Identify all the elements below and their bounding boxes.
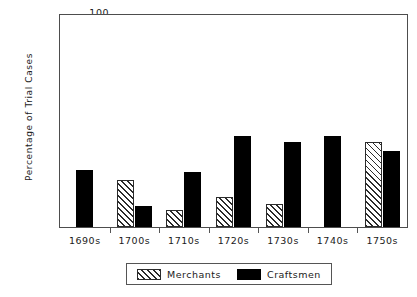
x-tick-mark xyxy=(258,228,259,233)
bar-merchants xyxy=(166,210,183,227)
x-tick-mark xyxy=(110,228,111,233)
x-tick-mark xyxy=(357,228,358,233)
x-tick-label: 1710s xyxy=(157,235,211,246)
bar-group xyxy=(258,15,308,227)
legend-label-merchants: Merchants xyxy=(167,269,221,280)
bar-group xyxy=(209,15,259,227)
bar-craftsmen xyxy=(284,142,301,227)
bar-craftsmen xyxy=(76,170,93,227)
x-tick-label: 1750s xyxy=(355,235,409,246)
bar-craftsmen xyxy=(383,151,400,227)
bar-group xyxy=(110,15,160,227)
bar-merchants xyxy=(117,180,134,227)
x-tick-mark xyxy=(308,228,309,233)
plot-area xyxy=(59,14,408,228)
bar-group xyxy=(308,15,358,227)
x-tick-label: 1690s xyxy=(58,235,112,246)
legend-item-merchants: Merchants xyxy=(137,269,221,280)
legend-label-craftsmen: Craftsmen xyxy=(267,269,321,280)
legend-swatch-craftsmen xyxy=(237,269,261,280)
legend-swatch-merchants xyxy=(137,269,161,280)
legend-item-craftsmen: Craftsmen xyxy=(237,269,321,280)
bar-group xyxy=(159,15,209,227)
bar-chart-figure: Percentage of Trial Cases 01020304050607… xyxy=(0,0,417,297)
bar-merchants xyxy=(216,197,233,227)
bar-group xyxy=(357,15,407,227)
bars-container xyxy=(60,15,407,227)
x-tick-label: 1730s xyxy=(256,235,310,246)
x-tick-label: 1720s xyxy=(207,235,261,246)
x-tick-mark xyxy=(209,228,210,233)
bar-merchants xyxy=(365,142,382,227)
bar-craftsmen xyxy=(234,136,251,227)
bar-craftsmen xyxy=(184,172,201,227)
bar-craftsmen xyxy=(135,206,152,227)
y-axis-title: Percentage of Trial Cases xyxy=(24,32,34,202)
x-tick-label: 1700s xyxy=(107,235,161,246)
x-tick-mark xyxy=(159,228,160,233)
bar-craftsmen xyxy=(324,136,341,227)
x-tick-label: 1740s xyxy=(306,235,360,246)
bar-merchants xyxy=(266,204,283,227)
chart-legend: Merchants Craftsmen xyxy=(126,263,332,285)
bar-group xyxy=(60,15,110,227)
x-axis-ticks: 1690s1700s1710s1720s1730s1740s1750s xyxy=(60,228,407,250)
